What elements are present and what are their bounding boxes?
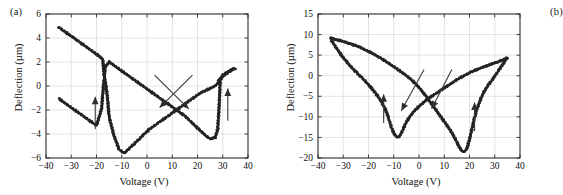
x-tick-label: −10: [114, 161, 129, 171]
y-tick-label: −4: [31, 129, 41, 139]
panel-b-tag: (b): [550, 6, 563, 17]
x-tick-label: 10: [440, 161, 450, 171]
x-tick-label: −30: [336, 161, 351, 171]
y-tick-label: −2: [31, 105, 41, 115]
panel-b: (b) Deflection (µm) Voltage (V) −40−30−2…: [272, 0, 544, 195]
y-tick-label: −20: [298, 153, 313, 163]
y-tick-label: −5: [303, 91, 313, 101]
panel-b-plot: −40−30−20−10010203040−20−15−10−5051015: [272, 0, 544, 195]
y-tick-label: 10: [304, 30, 314, 40]
y-tick-label: 0: [308, 71, 313, 81]
y-tick-label: 15: [304, 9, 314, 19]
y-tick-label: −15: [298, 133, 313, 143]
y-tick-label: 2: [36, 57, 41, 67]
x-tick-label: 40: [515, 161, 525, 171]
y-tick-label: −6: [31, 153, 41, 163]
x-tick-label: −20: [361, 161, 376, 171]
x-tick-label: −30: [64, 161, 79, 171]
y-tick-label: 6: [36, 9, 41, 19]
x-tick-label: 0: [417, 161, 422, 171]
x-tick-label: 20: [465, 161, 475, 171]
x-tick-label: 20: [193, 161, 203, 171]
x-tick-label: 10: [168, 161, 178, 171]
x-tick-label: 40: [243, 161, 253, 171]
y-tick-label: 0: [36, 81, 41, 91]
y-tick-label: 5: [308, 50, 313, 60]
y-tick-label: 4: [36, 33, 41, 43]
x-tick-label: 30: [218, 161, 228, 171]
x-tick-label: 30: [490, 161, 500, 171]
x-tick-label: −10: [386, 161, 401, 171]
panel-a: (a) Deflection (µm) Voltage (V) −40−30−2…: [0, 0, 272, 195]
panel-a-plot: −40−30−20−10010203040−6−4−20246: [0, 0, 272, 195]
x-tick-label: −20: [89, 161, 104, 171]
y-tick-label: −10: [298, 112, 313, 122]
x-tick-label: 0: [145, 161, 150, 171]
